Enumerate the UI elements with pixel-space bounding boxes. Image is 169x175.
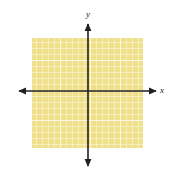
y-axis-label: y: [85, 9, 90, 19]
x-axis-label: x: [159, 85, 164, 95]
coordinate-plane-svg: x y: [0, 0, 169, 175]
coordinate-plane-figure: x y: [0, 0, 169, 175]
